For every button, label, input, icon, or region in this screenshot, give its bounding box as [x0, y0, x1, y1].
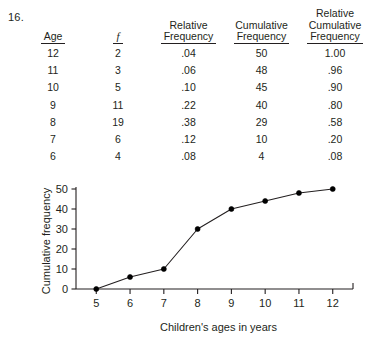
cell-cum-freq: 48 [225, 62, 298, 79]
column-header-relative-cumulative-frequency: Relative Cumulative Frequency [298, 8, 372, 45]
cell-f: 4 [84, 148, 152, 165]
column-header-f-label: f [116, 30, 119, 42]
cell-f: 3 [84, 62, 152, 79]
cell-rel-cum-freq: .90 [298, 79, 372, 96]
cell-age: 11 [22, 62, 84, 79]
cell-f: 11 [84, 97, 152, 114]
column-header-relative-frequency-line2: Frequency [164, 30, 214, 42]
table-row: 8 19 .38 29 .58 [22, 114, 372, 131]
column-header-cumulative-frequency-line2: Frequency [237, 30, 287, 42]
column-header-age: Age [22, 8, 84, 45]
cell-f: 5 [84, 79, 152, 96]
y-axis-tick-label: 10 [56, 263, 68, 275]
x-axis-tick-label: 5 [93, 297, 99, 309]
y-axis-tick-label: 40 [56, 203, 68, 215]
cell-age: 12 [22, 45, 84, 63]
cell-age: 8 [22, 114, 84, 131]
x-axis-tick-label: 6 [127, 297, 133, 309]
data-point[interactable] [128, 275, 133, 280]
cell-rel-cum-freq: .80 [298, 97, 372, 114]
column-header-f: f [84, 8, 152, 45]
x-axis-tick-label: 9 [228, 297, 234, 309]
cell-age: 9 [22, 97, 84, 114]
x-axis-tick-label: 11 [293, 297, 304, 309]
column-header-relative-frequency-line1: Relative [170, 19, 208, 31]
cell-cum-freq: 29 [225, 114, 298, 131]
cell-rel-freq: .10 [152, 79, 225, 96]
table-row: 11 3 .06 48 .96 [22, 62, 372, 79]
x-axis-tick-label: 8 [195, 297, 201, 309]
y-axis-tick-label: 30 [56, 223, 68, 235]
table-row: 6 4 .08 4 .08 [22, 148, 372, 165]
table-body: 12 2 .04 50 1.00 11 3 .06 48 .96 10 5 .1… [22, 45, 372, 166]
data-point[interactable] [94, 287, 99, 292]
cell-cum-freq: 50 [225, 45, 298, 63]
data-point[interactable] [296, 191, 301, 196]
column-header-relative-frequency: Relative Frequency [152, 8, 225, 45]
cell-f: 6 [84, 131, 152, 148]
x-axis-tick-label: 7 [161, 297, 167, 309]
x-axis-title: Children's ages in years [160, 321, 278, 333]
column-header-cumulative-frequency: Cumulative Frequency [225, 8, 298, 45]
column-header-age-label: Age [44, 30, 63, 42]
cell-rel-cum-freq: .58 [298, 114, 372, 131]
y-axis-tick-label: 20 [56, 243, 68, 255]
cell-rel-freq: .08 [152, 148, 225, 165]
cell-rel-cum-freq: .20 [298, 131, 372, 148]
cell-rel-freq: .12 [152, 131, 225, 148]
table-header-row: Age f Relative Frequency Cumulative Freq… [22, 8, 372, 45]
cell-cum-freq: 45 [225, 79, 298, 96]
data-line [96, 189, 332, 289]
cell-f: 19 [84, 114, 152, 131]
cell-cum-freq: 40 [225, 97, 298, 114]
data-point[interactable] [195, 227, 200, 232]
cell-f: 2 [84, 45, 152, 63]
y-axis-tick-label: 0 [62, 283, 68, 295]
y-axis-title: Cumulative frequency [40, 187, 52, 294]
data-point[interactable] [263, 199, 268, 204]
cell-rel-cum-freq: .96 [298, 62, 372, 79]
cell-rel-cum-freq: 1.00 [298, 45, 372, 63]
table-row: 10 5 .10 45 .90 [22, 79, 372, 96]
y-axis-tick-label: 50 [56, 183, 68, 195]
cumulative-frequency-chart: 0102030405056789101112Children's ages in… [0, 172, 382, 338]
cell-cum-freq: 4 [225, 148, 298, 165]
table-row: 9 11 .22 40 .80 [22, 97, 372, 114]
x-axis-tick-label: 12 [327, 297, 339, 309]
column-header-relative-cumulative-frequency-line3: Frequency [310, 30, 360, 42]
column-header-cumulative-frequency-line1: Cumulative [235, 19, 288, 31]
problem-16-section: 16. Age f Relative Frequency Cumulative … [0, 0, 382, 172]
data-point[interactable] [229, 207, 234, 212]
column-header-relative-cumulative-frequency-line2: Cumulative [309, 19, 362, 31]
cell-rel-freq: .06 [152, 62, 225, 79]
cell-cum-freq: 10 [225, 131, 298, 148]
x-axis-tick-label: 10 [259, 297, 271, 309]
frequency-table: Age f Relative Frequency Cumulative Freq… [22, 8, 372, 165]
cell-rel-freq: .38 [152, 114, 225, 131]
problem-17-section: 17. 0102030405056789101112Children's age… [0, 172, 382, 338]
cell-age: 10 [22, 79, 84, 96]
column-header-relative-cumulative-frequency-line1: Relative [316, 7, 354, 19]
cell-rel-freq: .04 [152, 45, 225, 63]
cell-rel-cum-freq: .08 [298, 148, 372, 165]
table-row: 7 6 .12 10 .20 [22, 131, 372, 148]
cell-rel-freq: .22 [152, 97, 225, 114]
cell-age: 6 [22, 148, 84, 165]
cell-age: 7 [22, 131, 84, 148]
data-point[interactable] [161, 267, 166, 272]
table-row: 12 2 .04 50 1.00 [22, 45, 372, 63]
data-point[interactable] [330, 187, 335, 192]
